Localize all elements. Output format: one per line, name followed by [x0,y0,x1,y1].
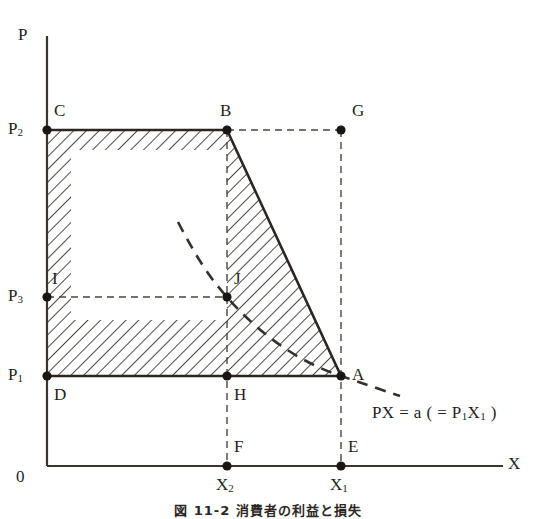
point-label-G: G [352,102,364,119]
figure-caption: 図 11-2 消費者の利益と損失 [0,500,536,519]
point-H [222,371,231,380]
tick-label-p2: P2 [8,120,23,138]
point-label-B: B [220,102,231,119]
tick-label-p2-sub: 2 [17,126,23,138]
y-axis-label: P [18,26,27,43]
point-G [336,125,345,134]
origin-label: 0 [16,468,25,485]
point-label-I: I [52,270,58,287]
point-E [336,461,345,470]
tick-label-x1: X1 [330,476,348,494]
tick-label-p3-sub: 3 [17,293,23,305]
curve-equation-label: PX = a ( = P1X1 ) [372,404,497,422]
tick-label-x2-base: X [216,475,228,494]
tick-label-x1-sub: 1 [342,482,348,494]
point-A [336,371,345,380]
point-D [42,371,51,380]
tick-label-x2: X2 [216,476,234,494]
x-axis-label: X [508,455,520,472]
point-J [222,292,231,301]
hatched-region [47,130,341,376]
tick-label-p3: P3 [8,287,23,305]
tick-label-x2-sub: 2 [228,482,234,494]
tick-label-p1-sub: 1 [17,372,23,384]
curve-equation-mid: X [468,403,481,422]
point-label-A: A [352,366,364,383]
point-label-D: D [54,386,66,403]
point-F [222,461,231,470]
point-B [222,125,231,134]
point-C [42,125,51,134]
tick-label-p1: P1 [8,366,23,384]
point-I [42,292,51,301]
curve-equation-prefix: PX = a ( = P [372,403,462,422]
point-label-J: J [234,270,241,287]
point-label-H: H [234,386,246,403]
curve-equation-suffix: ) [486,403,497,422]
tick-label-x1-base: X [330,475,342,494]
point-label-E: E [348,438,358,455]
point-label-F: F [234,438,243,455]
point-label-C: C [54,102,65,119]
